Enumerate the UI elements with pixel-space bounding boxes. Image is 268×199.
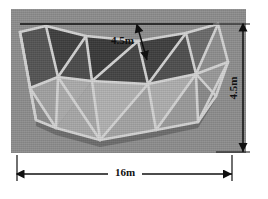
band-depth-arrow — [137, 25, 147, 60]
figure-root: 4.5m 4.5m 16m — [0, 0, 268, 199]
dimension-overall-width: 16m — [17, 155, 232, 181]
dimension-top-band-depth: 4.5m — [111, 25, 147, 60]
overall-width-label: 16m — [115, 166, 135, 178]
dimension-annotations: 4.5m 4.5m 16m — [0, 0, 268, 199]
dimension-overall-height: 4.5m — [213, 24, 250, 152]
overall-height-label: 4.5m — [227, 77, 239, 100]
top-band-depth-label: 4.5m — [111, 34, 134, 46]
